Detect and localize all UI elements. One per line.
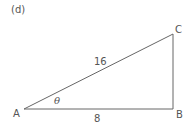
part-label: (d) bbox=[11, 4, 25, 15]
triangle-diagram: (d) A B C 16 8 θ bbox=[0, 0, 194, 129]
side-ac-length: 16 bbox=[94, 56, 107, 67]
side-ab-length: 8 bbox=[94, 113, 100, 124]
vertex-a-label: A bbox=[13, 108, 20, 119]
angle-theta-label: θ bbox=[54, 95, 60, 106]
vertex-c-label: C bbox=[175, 24, 182, 35]
vertex-b-label: B bbox=[176, 109, 183, 120]
right-triangle bbox=[24, 34, 173, 109]
